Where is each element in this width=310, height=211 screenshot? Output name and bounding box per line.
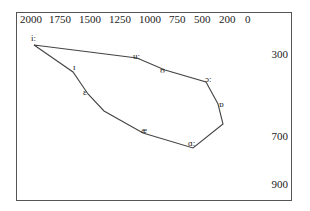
vowel-label-i: iː xyxy=(31,34,36,43)
vowel-label-ae: æ xyxy=(141,126,147,135)
vowel-label-u: uː xyxy=(133,52,140,61)
vowel-label-aa: ɑː xyxy=(188,139,195,148)
vowel-polygon xyxy=(0,0,310,211)
vowel-label-u-short: ʊ xyxy=(160,66,165,75)
vowel-label-oo: ɔː xyxy=(205,75,212,84)
vowel-label-o: ɒ xyxy=(219,100,224,109)
vowel-label-ih: ɪ xyxy=(73,63,76,72)
vowel-label-eh: ɛ xyxy=(83,88,87,97)
